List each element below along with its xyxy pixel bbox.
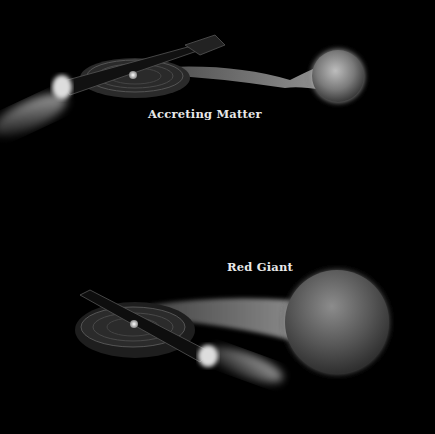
binary-accretion-diagram	[0, 0, 435, 434]
top-system	[0, 35, 368, 145]
companion-star-top	[312, 50, 364, 102]
compact-star-bottom	[130, 320, 138, 328]
jet-end-top	[52, 75, 72, 99]
label-red-giant: Red Giant	[227, 260, 293, 274]
label-accreting-matter: Accreting Matter	[148, 107, 262, 121]
red-giant-star	[285, 270, 389, 374]
bottom-system	[75, 265, 394, 390]
compact-star-top	[129, 71, 137, 79]
jet-end-bottom	[198, 345, 218, 367]
jet-glow-bottom	[203, 340, 286, 390]
